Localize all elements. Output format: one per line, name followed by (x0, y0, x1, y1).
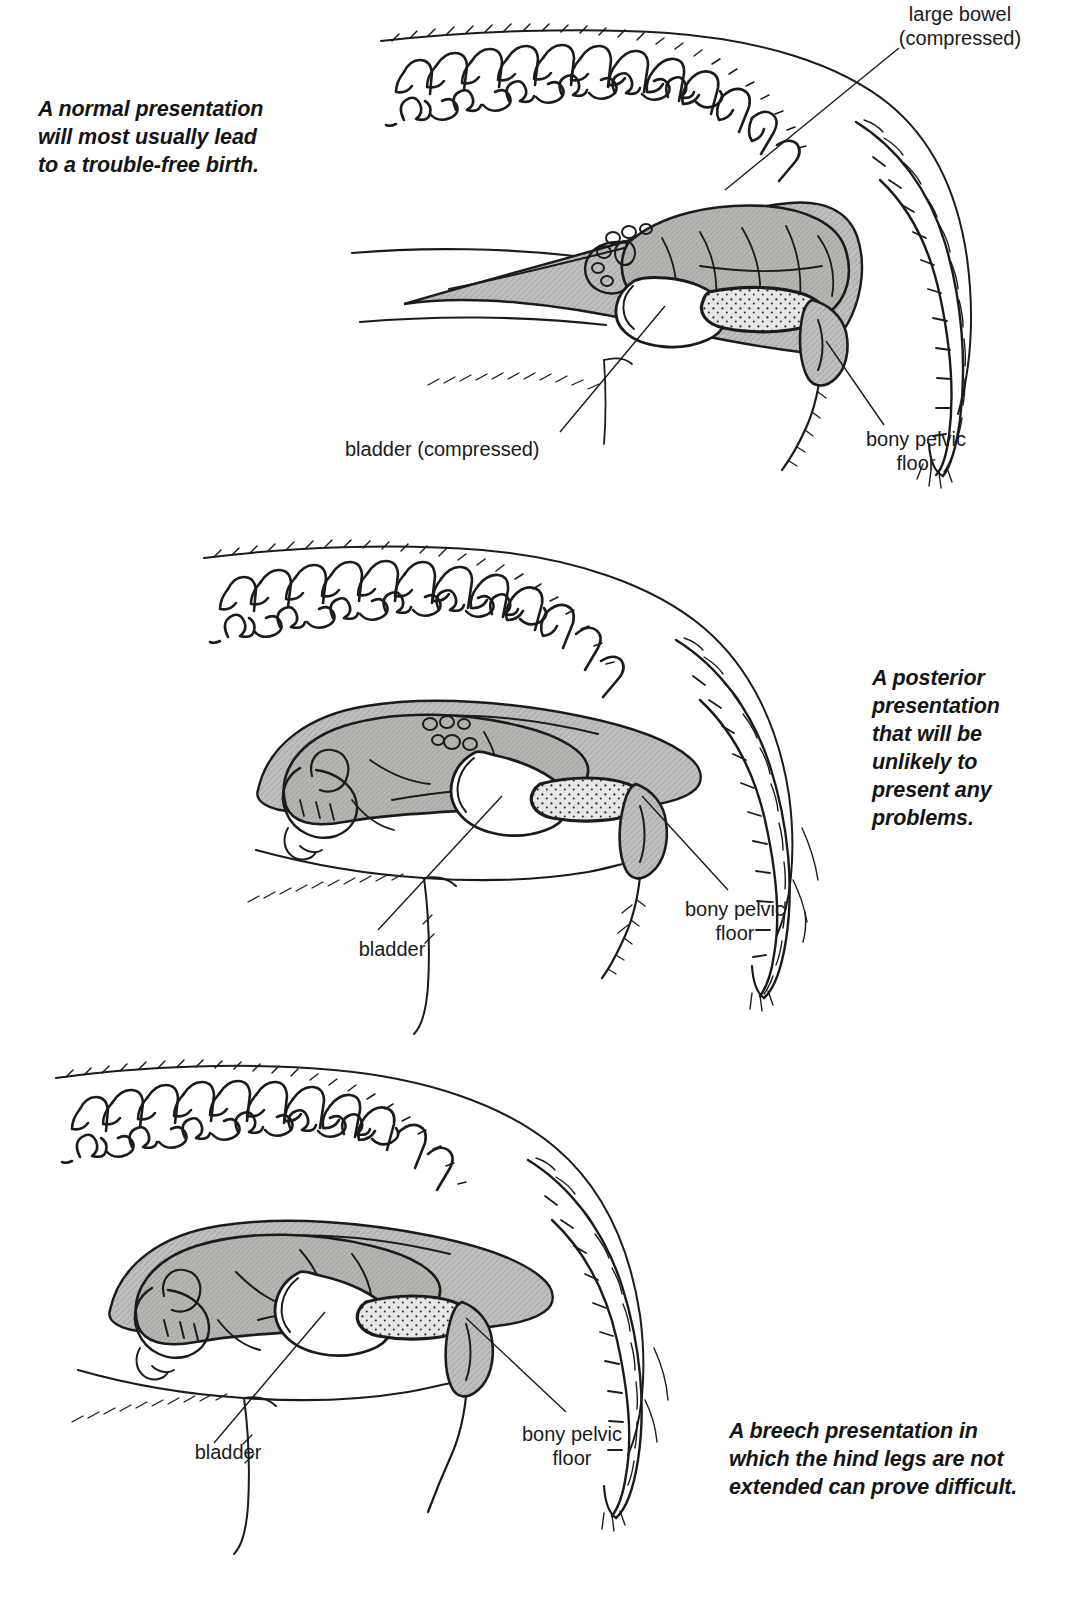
caption-normal-presentation: A normal presentation will most usually … (38, 96, 308, 180)
diagram-normal-presentation (352, 24, 971, 488)
label-bony-pelvic-floor-2: bony pelvic floor (655, 897, 815, 945)
caption-posterior-presentation: A posterior presentation that will be un… (872, 665, 1087, 833)
illustration-page: A normal presentation will most usually … (0, 0, 1090, 1603)
label-bladder-compressed: bladder (compressed) (345, 437, 575, 461)
caption-breech-presentation: A breech presentation in which the hind … (729, 1418, 1074, 1502)
label-large-bowel-compressed: large bowel (compressed) (865, 2, 1055, 50)
leader-pelvic-floor (826, 341, 884, 425)
diagram-posterior-presentation (204, 540, 818, 1034)
label-bladder-2: bladder (332, 937, 452, 961)
label-bony-pelvic-floor-3: bony pelvic floor (492, 1422, 652, 1470)
label-bladder-3: bladder (168, 1440, 288, 1464)
diagram-breech-presentation (56, 1060, 668, 1554)
label-bony-pelvic-floor-1: bony pelvic floor (836, 427, 996, 475)
leader-bladder (560, 306, 665, 432)
